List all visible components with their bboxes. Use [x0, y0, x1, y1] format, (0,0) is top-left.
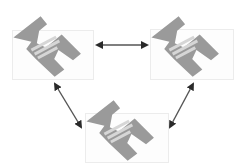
- bidirectional-arrow-right: [170, 84, 193, 127]
- edges-layer: [0, 0, 252, 167]
- bidirectional-arrow-left: [55, 84, 81, 127]
